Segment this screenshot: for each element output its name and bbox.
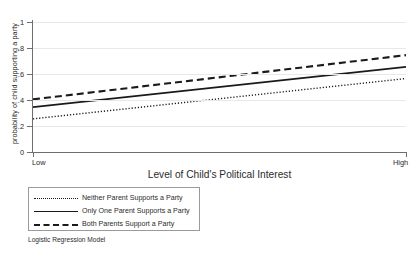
gridline	[33, 100, 406, 101]
legend-item[interactable]: Both Parents Support a Party	[34, 218, 198, 231]
legend-line-sample	[34, 198, 78, 202]
series-line	[33, 79, 406, 119]
y-tick-label: 0	[0, 148, 24, 157]
gridline	[33, 22, 406, 23]
y-tick-mark	[27, 48, 33, 49]
legend-label: Only One Parent Supports a Party	[82, 205, 190, 218]
legend-line-sample	[34, 211, 78, 215]
y-tick-label: .8	[0, 44, 24, 53]
legend-line-sample	[34, 224, 78, 229]
gridline	[33, 74, 406, 75]
legend-label: Neither Parent Supports a Party	[82, 192, 183, 205]
x-tick-mark	[406, 152, 407, 157]
x-tick-label: High	[393, 158, 408, 167]
legend-label: Both Parents Support a Party	[82, 218, 174, 231]
legend-item[interactable]: Neither Parent Supports a Party	[34, 192, 198, 205]
x-axis-title: Level of Child's Political Interest	[33, 169, 406, 180]
y-tick-mark	[27, 100, 33, 101]
y-tick-label: .2	[0, 122, 24, 131]
chart-caption: Logistic Regression Model	[28, 236, 105, 243]
y-tick-label: 1	[0, 18, 24, 27]
y-axis-title: probability of child supporting a party	[10, 9, 19, 159]
x-tick-label: Low	[32, 158, 46, 167]
y-tick-mark	[27, 22, 33, 23]
series-line	[33, 55, 406, 99]
chart-figure: probability of child supporting a party …	[0, 0, 417, 253]
x-axis-line	[33, 152, 407, 153]
series-line	[33, 67, 406, 107]
x-tick-mark	[33, 152, 34, 157]
y-tick-label: .4	[0, 96, 24, 105]
y-tick-mark	[27, 126, 33, 127]
gridline	[33, 126, 406, 127]
y-tick-label: .6	[0, 70, 24, 79]
series-lines	[33, 22, 406, 152]
gridline	[33, 48, 406, 49]
plot-area	[33, 22, 406, 152]
y-tick-mark	[27, 74, 33, 75]
legend-item[interactable]: Only One Parent Supports a Party	[34, 205, 198, 218]
chart-legend: Neither Parent Supports a PartyOnly One …	[28, 187, 200, 231]
